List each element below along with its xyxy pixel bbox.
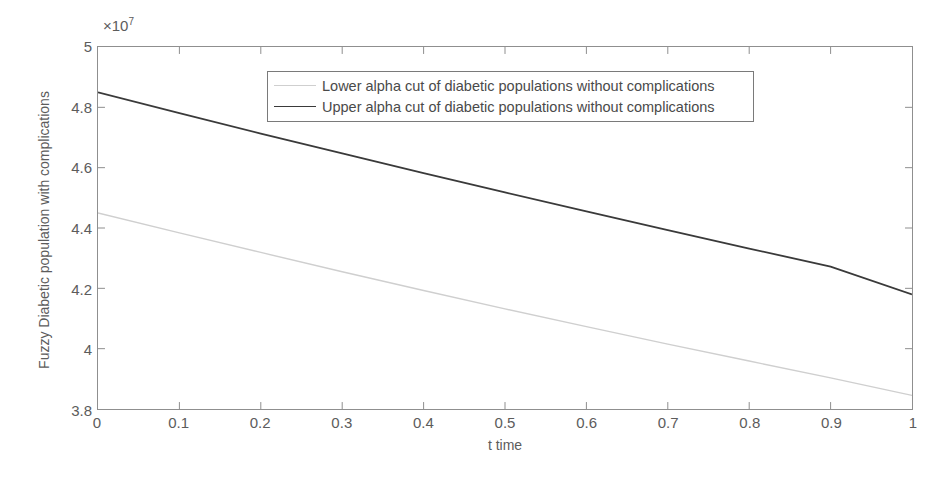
x-axis-tick-label: 0.3 [331, 414, 352, 431]
series-line-upper-alpha-cut [98, 92, 912, 294]
x-axis-tick-label: 0.2 [250, 414, 271, 431]
legend-item-lower: Lower alpha cut of diabetic populations … [274, 75, 747, 96]
series-line-lower-alpha-cut [98, 213, 912, 396]
y-axis-title: Fuzzy Diabetic population with complicat… [36, 40, 52, 420]
legend-line-sample-upper-icon [274, 106, 316, 107]
legend-label-lower: Lower alpha cut of diabetic populations … [322, 78, 715, 94]
legend-line-sample-lower-icon [274, 85, 316, 86]
x-axis-tick-label: 0.5 [495, 414, 516, 431]
x-axis-title: t time [97, 437, 913, 453]
x-axis-tick-label: 0.7 [658, 414, 679, 431]
x-axis-tick-labels: 00.10.20.30.40.50.60.70.80.91 [97, 414, 913, 438]
legend-item-upper: Upper alpha cut of diabetic populations … [274, 96, 747, 117]
x-axis-tick-label: 0.4 [413, 414, 434, 431]
legend-label-upper: Upper alpha cut of diabetic populations … [322, 99, 715, 115]
plot-area: Lower alpha cut of diabetic populations … [97, 46, 913, 410]
x-axis-tick-label: 0.6 [576, 414, 597, 431]
legend: Lower alpha cut of diabetic populations … [267, 71, 754, 122]
y-axis-exponent-label: ×107 [103, 16, 134, 34]
x-axis-tick-label: 1 [909, 414, 917, 431]
x-axis-tick-label: 0.9 [821, 414, 842, 431]
x-axis-tick-label: 0 [93, 414, 101, 431]
figure-canvas: ×107 3.844.24.44.64.85 Lower alpha cut o… [0, 0, 938, 477]
y-axis-exponent-power: 7 [128, 16, 134, 27]
x-axis-tick-label: 0.8 [739, 414, 760, 431]
x-axis-tick-label: 0.1 [168, 414, 189, 431]
y-axis-exponent-mantissa: ×10 [103, 17, 128, 34]
